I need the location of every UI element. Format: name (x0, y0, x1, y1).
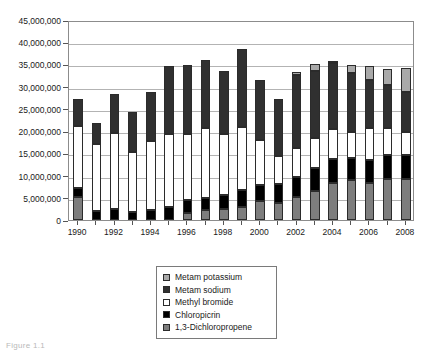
bar-segment (164, 134, 173, 207)
x-axis-tick-mark (168, 221, 169, 225)
y-axis-tick-label: 25,000,000 (18, 104, 61, 116)
bar-2008 (401, 68, 410, 220)
y-axis: 05,000,00010,000,00015,000,00020,000,000… (0, 0, 68, 240)
bar-segment (347, 73, 356, 131)
x-axis-tick-label: 1994 (140, 227, 159, 237)
y-axis-tick-label: 35,000,000 (18, 59, 61, 71)
bar-segment (292, 148, 301, 177)
figure-container: 05,000,00010,000,00015,000,00020,000,000… (0, 0, 433, 352)
y-axis-tick: 0 (0, 215, 68, 227)
bar-segment (146, 210, 155, 220)
bar-2002 (292, 72, 301, 220)
bar-segment (201, 128, 210, 199)
bar-segment (237, 49, 246, 127)
bar-2000 (255, 80, 264, 220)
bar-segment (237, 190, 246, 206)
x-axis-tick-mark (314, 221, 315, 225)
bar-segment (347, 132, 356, 158)
x-axis-tick-mark (77, 221, 78, 225)
bar-segment (401, 92, 410, 132)
gridline (69, 44, 413, 45)
bar-segment (219, 134, 228, 195)
bar-1991 (92, 123, 101, 220)
plot-area (68, 21, 414, 221)
y-axis-tick-label: 15,000,000 (18, 148, 61, 160)
bar-segment (128, 152, 137, 212)
x-axis-tick-label: 2000 (250, 227, 269, 237)
bar-segment (110, 94, 119, 133)
y-axis-tick: 20,000,000 (0, 126, 68, 138)
bar-1995 (164, 66, 173, 220)
bar-segment (383, 155, 392, 179)
x-axis-tick-mark (368, 221, 369, 225)
bar-segment (92, 123, 101, 145)
chloropicrin-swatch (163, 311, 170, 318)
y-axis-tick-label: 20,000,000 (18, 126, 61, 138)
bar-segment (274, 156, 283, 184)
bar-segment (164, 66, 173, 134)
bar-segment (292, 177, 301, 197)
bar-segment (274, 184, 283, 203)
bar-segment (73, 188, 82, 197)
bar-segment (310, 71, 319, 138)
y-axis-tick: 45,000,000 (0, 15, 68, 27)
bar-segment (310, 138, 319, 168)
bar-1992 (110, 94, 119, 220)
x-axis-tick-mark (405, 221, 406, 225)
y-axis-tick-label: 0 (56, 215, 61, 227)
bar-segment (73, 197, 82, 220)
bar-1993 (128, 112, 137, 220)
legend-item-label: Metam potassium (175, 271, 242, 284)
bar-2006 (365, 66, 374, 220)
bar-2007 (383, 69, 392, 220)
chart-legend: Metam potassiumMetam sodiumMethyl bromid… (156, 266, 277, 339)
bar-segment (347, 65, 356, 73)
y-axis-tick-label: 10,000,000 (18, 171, 61, 183)
bar-segment (255, 201, 264, 220)
bar-segment (255, 185, 264, 201)
dichloropropene-swatch (163, 324, 170, 331)
x-axis-tick-mark (259, 221, 260, 225)
legend-item-label: Chloropicrin (175, 309, 220, 322)
legend-item-label: 1,3-Dichloropropene (175, 321, 252, 334)
bar-segment (310, 64, 319, 71)
bar-segment (328, 129, 337, 158)
bar-segment (365, 128, 374, 161)
bar-1999 (237, 49, 246, 220)
bar-segment (73, 99, 82, 126)
bar-segment (183, 200, 192, 213)
legend-item: Methyl bromide (163, 296, 270, 309)
y-axis-tick: 5,000,000 (0, 193, 68, 205)
x-axis-tick-mark (296, 221, 297, 225)
x-axis-tick-mark (277, 221, 278, 225)
bar-segment (383, 128, 392, 155)
bar-segment (183, 134, 192, 200)
y-axis-tick: 10,000,000 (0, 171, 68, 183)
bar-1990 (73, 99, 82, 220)
bar-segment (328, 61, 337, 63)
x-axis-tick-mark (132, 221, 133, 225)
bar-2003 (310, 64, 319, 220)
bar-segment (365, 66, 374, 80)
y-axis-tick-label: 30,000,000 (18, 82, 61, 94)
bar-segment (92, 211, 101, 220)
bar-segment (201, 210, 210, 220)
bar-segment (237, 127, 246, 191)
bar-segment (255, 140, 264, 185)
bar-segment (164, 207, 173, 220)
bar-segment (328, 63, 337, 130)
bar-segment (365, 183, 374, 220)
bar-1997 (201, 60, 210, 220)
bar-segment (401, 132, 410, 154)
x-axis: 1990199219941996199820002002200420062008 (68, 221, 414, 251)
bar-segment (255, 80, 264, 140)
bar-segment (401, 179, 410, 220)
bar-segment (128, 112, 137, 151)
bar-segment (219, 195, 228, 209)
x-axis-tick-mark (186, 221, 187, 225)
bar-segment (110, 209, 119, 220)
x-axis-tick-mark (95, 221, 96, 225)
bar-1994 (146, 92, 155, 220)
bar-segment (310, 168, 319, 190)
y-axis-tick: 35,000,000 (0, 59, 68, 71)
